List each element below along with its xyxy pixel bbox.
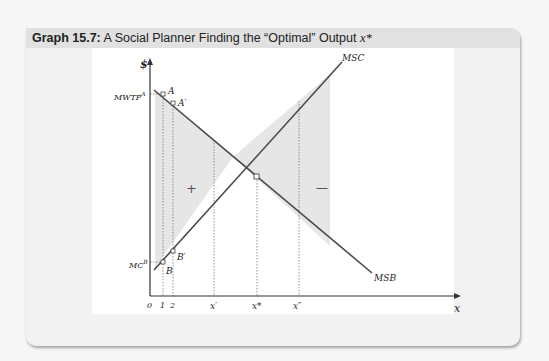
point-b-label: B xyxy=(165,266,173,276)
plus-sign: + xyxy=(186,181,197,196)
y-axis-arrow-icon xyxy=(147,58,153,65)
point-a-prime-marker xyxy=(171,101,175,105)
msb-label: MSB xyxy=(373,273,396,283)
y-axis-label: $ xyxy=(140,58,148,71)
tick-x-star: x* xyxy=(252,301,262,311)
tick-x-prime: x′ xyxy=(210,301,217,311)
x-axis-arrow-icon xyxy=(454,293,461,299)
point-a-label: A xyxy=(167,86,175,96)
tick-2: 2 xyxy=(169,301,175,310)
economics-chart: $ x MSC MSB MWTPA MCB A A′ B B′ + — 0 1 … xyxy=(26,28,520,346)
x-tick-labels: 0 1 2 x′ x* x″ xyxy=(147,301,302,311)
msc-label: MSC xyxy=(341,53,364,63)
x-axis-label: x xyxy=(454,302,461,315)
tick-x-double-prime: x″ xyxy=(293,301,302,311)
tick-0: 0 xyxy=(147,301,152,310)
point-b-prime-marker xyxy=(171,249,175,253)
mc-label: MCB xyxy=(128,258,148,270)
plus-region xyxy=(155,91,233,268)
minus-sign: — xyxy=(316,181,328,195)
point-b-marker xyxy=(161,260,165,264)
tick-1: 1 xyxy=(160,301,165,310)
graph-card: Graph 15.7: A Social Planner Finding the… xyxy=(26,28,520,346)
point-a-marker xyxy=(161,92,165,96)
mwtp-label: MWTPA xyxy=(113,90,146,102)
equilibrium-marker xyxy=(254,174,259,179)
minus-region xyxy=(233,74,330,246)
point-b-prime-label: B′ xyxy=(176,252,186,262)
point-a-prime-label: A′ xyxy=(177,98,187,108)
